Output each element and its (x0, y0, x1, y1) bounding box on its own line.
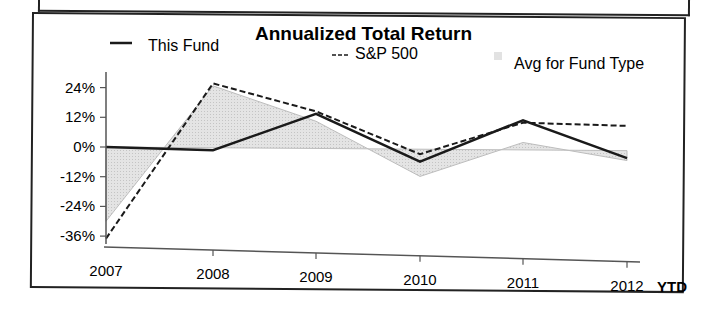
legend-label-avg: Avg for Fund Type (514, 55, 644, 72)
legend-item-sp500: S&P 500 (332, 45, 418, 62)
x-tick-label: 2010 (403, 271, 436, 288)
y-tick-label: 0% (73, 138, 95, 155)
y-tick-label: -36% (60, 227, 95, 244)
legend-label-this-fund: This Fund (148, 37, 219, 54)
y-tick-label: 24% (65, 79, 95, 96)
y-tick-label: 12% (65, 108, 95, 125)
x-axis-line (104, 247, 640, 262)
y-axis: 24%12%0%-12%-24%-36% (60, 72, 106, 244)
y-tick-label: -24% (60, 197, 95, 214)
avg-fund-type-area (106, 86, 627, 221)
x-tick-label: 2007 (89, 262, 122, 279)
chart-svg: Annualized Total Return This Fund S&P 50… (0, 0, 719, 330)
x-tick-label: 2011 (507, 274, 539, 291)
y-tick-label: -12% (60, 168, 95, 185)
chart-title: Annualized Total Return (255, 23, 472, 44)
legend-item-this-fund: This Fund (110, 37, 219, 54)
legend-item-avg: Avg for Fund Type (494, 52, 644, 72)
x-tick-label: 2009 (299, 268, 332, 285)
area-swatch-icon (494, 52, 502, 60)
x-tick-label: 2012 (610, 277, 643, 294)
x-tick-label: 2008 (196, 265, 229, 282)
ytd-label: YTD (657, 278, 687, 295)
plot-area (106, 83, 627, 238)
legend-label-sp500: S&P 500 (355, 45, 418, 62)
x-axis: 200720082009201020112012 YTD (89, 247, 687, 295)
sp500-line (106, 83, 627, 238)
